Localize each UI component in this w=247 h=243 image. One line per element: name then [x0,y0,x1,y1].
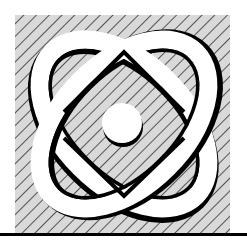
atom-logo [0,0,247,243]
baseline-rule [0,233,247,236]
atom-logo-graphic [0,0,247,243]
